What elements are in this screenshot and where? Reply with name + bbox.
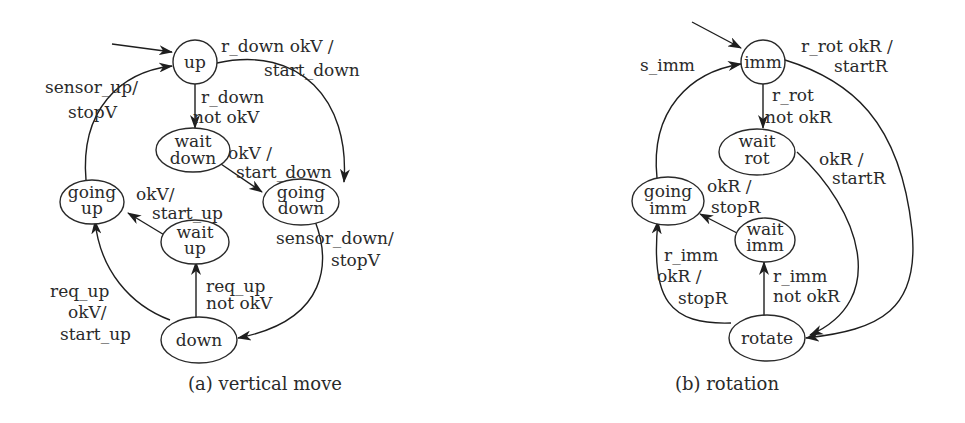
- caption-vertical-move: (a) vertical move: [188, 373, 342, 394]
- diagram-rotation: imm wait rot going imm wait imm rotate r…: [632, 22, 913, 394]
- svg-text:start_up: start_up: [60, 324, 131, 344]
- svg-text:sensor_up/: sensor_up/: [45, 77, 138, 97]
- state-going-up: going up: [60, 180, 124, 224]
- svg-text:r_down: r_down: [201, 87, 264, 107]
- svg-text:okV/: okV/: [136, 184, 175, 204]
- svg-text:rot: rot: [744, 148, 769, 168]
- label-rotate-to-wait-imm: r_imm not okR: [773, 266, 841, 306]
- label-imm-to-wait-rot: r_rot not okR: [765, 85, 833, 127]
- svg-text:start_down: start_down: [264, 60, 360, 80]
- svg-text:r_down okV /: r_down okV /: [221, 36, 334, 56]
- caption-rotation: (b) rotation: [675, 373, 780, 394]
- svg-text:start_up: start_up: [152, 203, 223, 223]
- svg-text:down: down: [176, 330, 223, 350]
- svg-text:down: down: [278, 198, 325, 218]
- svg-text:okR /: okR /: [657, 266, 702, 286]
- svg-text:r_imm: r_imm: [773, 266, 827, 286]
- svg-text:imm: imm: [744, 52, 782, 72]
- svg-text:r_rot: r_rot: [772, 85, 814, 105]
- diagram-vertical-move: up wait down going down going up wait up…: [45, 36, 394, 394]
- state-wait-up: wait up: [161, 220, 229, 264]
- label-wait-down-to-going-down: okV / start_down: [228, 143, 332, 182]
- svg-text:req_up: req_up: [50, 281, 110, 301]
- label-up-to-going-down: r_down okV / start_down: [221, 36, 360, 80]
- label-up-to-wait-down: r_down not okV: [193, 87, 264, 127]
- state-going-imm: going imm: [632, 177, 704, 225]
- label-going-up-to-up: sensor_up/ stopV: [45, 77, 138, 122]
- svg-text:up: up: [81, 198, 103, 218]
- label-wait-imm-to-going-imm: okR / stopR: [707, 176, 762, 217]
- svg-text:not okR: not okR: [773, 286, 841, 306]
- state-wait-rot: wait rot: [719, 129, 795, 175]
- svg-text:up: up: [184, 238, 206, 258]
- svg-text:r_rot okR /: r_rot okR /: [801, 36, 893, 56]
- label-going-imm-to-imm: s_imm: [640, 55, 695, 75]
- label-wait-up-to-going-up: okV/ start_up: [136, 184, 223, 223]
- svg-text:okV /: okV /: [228, 143, 272, 163]
- svg-text:stopR: stopR: [678, 288, 729, 308]
- svg-text:stopV: stopV: [331, 250, 381, 270]
- svg-text:okV/: okV/: [68, 302, 107, 322]
- state-wait-imm: wait imm: [735, 218, 795, 262]
- svg-text:down: down: [170, 148, 217, 168]
- svg-text:not okV: not okV: [193, 107, 260, 127]
- initial-arrow-up: [112, 44, 172, 52]
- svg-text:stopR: stopR: [711, 197, 762, 217]
- state-diagrams: up wait down going down going up wait up…: [0, 0, 965, 423]
- label-down-to-wait-up: req_up not okV: [206, 276, 273, 313]
- svg-text:startR: startR: [834, 56, 889, 76]
- svg-text:startR: startR: [832, 168, 887, 188]
- svg-text:up: up: [184, 52, 206, 72]
- state-wait-down: wait down: [156, 128, 230, 172]
- svg-text:imm: imm: [746, 235, 784, 255]
- initial-arrow-imm: [692, 22, 741, 48]
- label-going-down-to-down: sensor_down/ stopV: [276, 228, 394, 270]
- svg-text:not okV: not okV: [206, 293, 273, 313]
- state-up: up: [173, 40, 217, 84]
- label-down-to-going-up: req_up okV/ start_up: [50, 281, 131, 344]
- label-imm-to-rotate: r_rot okR / startR: [801, 36, 893, 76]
- svg-text:not okR: not okR: [765, 107, 833, 127]
- svg-text:start_down: start_down: [236, 162, 332, 182]
- svg-text:sensor_down/: sensor_down/: [276, 228, 394, 248]
- svg-text:stopV: stopV: [68, 102, 118, 122]
- state-going-down: going down: [263, 179, 339, 225]
- label-rotate-to-going-imm: r_imm okR / stopR: [657, 245, 729, 308]
- state-imm: imm: [741, 40, 785, 84]
- svg-text:r_imm: r_imm: [664, 245, 718, 265]
- svg-text:imm: imm: [649, 198, 687, 218]
- svg-text:okR /: okR /: [819, 149, 864, 169]
- state-rotate: rotate: [729, 315, 805, 361]
- svg-text:rotate: rotate: [741, 328, 793, 348]
- svg-text:okR /: okR /: [707, 176, 752, 196]
- label-wait-rot-to-rotate: okR / startR: [819, 149, 887, 188]
- state-down: down: [161, 317, 237, 363]
